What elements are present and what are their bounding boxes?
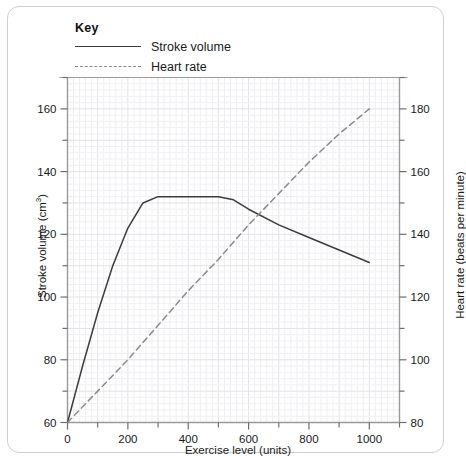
svg-text:200: 200 [118, 433, 137, 445]
svg-text:140: 140 [411, 228, 430, 240]
chart-svg: 6080100120140160801001201401601800200400… [8, 7, 461, 460]
svg-text:0: 0 [64, 433, 70, 445]
y-axis-title-right: Heart rate (beats per minute) [454, 145, 466, 345]
svg-text:160: 160 [37, 103, 56, 115]
y-axis-right-ticks: 80100120140160180 [400, 78, 430, 429]
svg-text:160: 160 [411, 166, 430, 178]
svg-text:120: 120 [411, 291, 430, 303]
svg-text:80: 80 [44, 354, 57, 366]
plot-area: 6080100120140160801001201401601800200400… [8, 7, 461, 460]
svg-text:800: 800 [299, 433, 318, 445]
svg-text:1000: 1000 [357, 433, 383, 445]
svg-text:400: 400 [179, 433, 198, 445]
svg-text:100: 100 [411, 354, 430, 366]
chart-card: Key Stroke volume Heart rate 60801001201… [7, 6, 444, 453]
svg-text:60: 60 [44, 417, 57, 429]
svg-text:80: 80 [411, 417, 424, 429]
y-axis-title-left: Stroke volume (cm3) [34, 166, 48, 326]
svg-text:600: 600 [239, 433, 258, 445]
x-axis-ticks: 02004006008001000 [64, 423, 399, 445]
svg-text:180: 180 [411, 103, 430, 115]
axis-frame [60, 78, 408, 423]
x-axis-title: Exercise level (units) [138, 444, 338, 456]
